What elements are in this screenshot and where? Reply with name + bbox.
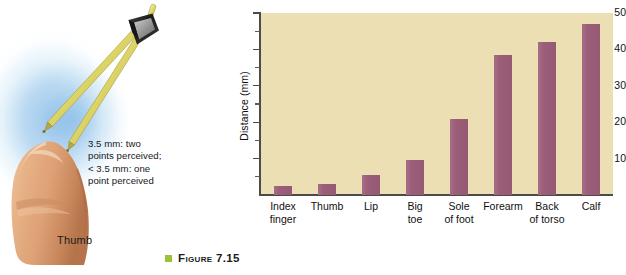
thumb-icon — [8, 140, 94, 265]
bar — [582, 24, 600, 195]
y-tick-major — [253, 49, 260, 50]
caption-bullet-icon — [165, 255, 172, 262]
bar — [362, 175, 380, 195]
y-tick-minor — [255, 67, 260, 68]
figure-caption: Figure 7.15 — [165, 252, 240, 264]
annotation-line-3: < 3.5 mm: one — [88, 163, 200, 175]
x-axis-label: Calf — [562, 200, 620, 213]
caliper-annotation: 3.5 mm: two points perceived; < 3.5 mm: … — [88, 138, 200, 188]
annotation-line-4: point perceived — [88, 175, 200, 187]
annotation-line-1: 3.5 mm: two — [88, 138, 200, 150]
x-axis-label-line: finger — [254, 213, 312, 226]
x-axis-label-line: of torso — [518, 213, 576, 226]
x-axis-label-line: of foot — [430, 213, 488, 226]
y-tick-major — [253, 122, 260, 123]
bar — [274, 186, 292, 195]
plot-area — [261, 13, 613, 195]
caliper-contact-point-left — [43, 130, 46, 133]
bar — [538, 42, 556, 195]
y-tick-minor — [255, 31, 260, 32]
y-tick-label: 50 — [592, 6, 626, 18]
x-axis-line — [259, 194, 613, 196]
y-axis-title: Distance (mm) — [238, 51, 250, 161]
figure-caption-text: Figure 7.15 — [178, 252, 240, 264]
y-tick-major — [253, 85, 260, 86]
x-axis-label-line: Calf — [562, 200, 620, 213]
y-tick-minor — [255, 176, 260, 177]
bar — [318, 184, 336, 195]
y-tick-minor — [255, 103, 260, 104]
bar — [494, 55, 512, 195]
bar — [406, 160, 424, 195]
y-tick-minor — [255, 140, 260, 141]
bar — [450, 119, 468, 195]
illustration-panel: Thumb 3.5 mm: two points perceived; < 3.… — [0, 0, 215, 258]
y-tick-major — [253, 158, 260, 159]
thumb-label: Thumb — [57, 234, 92, 246]
caliper-hinge — [129, 14, 160, 45]
y-tick-major — [253, 12, 260, 13]
bar-chart: Distance (mm) 1020304050 IndexfingerThum… — [215, 0, 626, 240]
annotation-line-2: points perceived; — [88, 150, 200, 162]
